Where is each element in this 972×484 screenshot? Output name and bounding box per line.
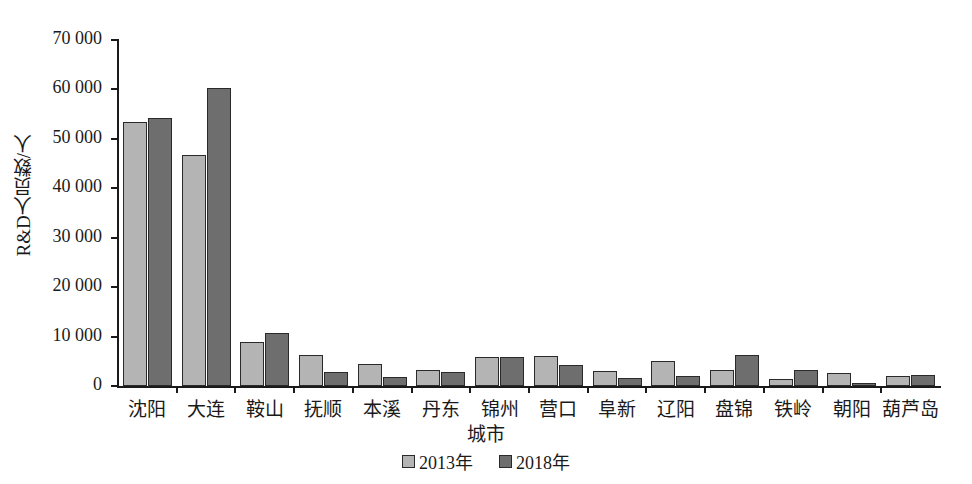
x-axis-category-label: 大连 [177, 398, 236, 422]
bar-2018 [676, 376, 700, 386]
x-axis-category-label: 朝阳 [823, 398, 882, 422]
x-axis-tick [587, 386, 589, 393]
y-axis-tick-label: 10 000 [53, 325, 103, 345]
legend-label-2013: 2013年 [419, 448, 473, 474]
y-axis-tick: 60 000 [111, 88, 118, 90]
bar-group [299, 40, 348, 386]
bar-group [182, 40, 231, 386]
bar-group [710, 40, 759, 386]
x-axis-category-label: 丹东 [412, 398, 471, 422]
chart-legend: 2013年 2018年 [0, 448, 972, 474]
legend-swatch-2018 [499, 455, 512, 468]
y-axis-tick-label: 30 000 [53, 226, 103, 246]
bar-2018 [794, 370, 818, 386]
bar-group [651, 40, 700, 386]
y-axis-title-text: R&D人员数/人 [10, 134, 37, 256]
y-axis-tick: 40 000 [111, 187, 118, 189]
bar-2013 [593, 371, 617, 386]
bar-group [886, 40, 935, 386]
bar-group [593, 40, 642, 386]
bar-2013 [769, 379, 793, 386]
x-axis-category-label: 阜新 [588, 398, 647, 422]
x-axis-tick [528, 386, 530, 393]
bar-2013 [299, 355, 323, 386]
x-axis-category-label: 葫芦岛 [881, 398, 940, 422]
x-axis-tick [176, 386, 178, 393]
y-axis-tick: 50 000 [111, 138, 118, 140]
plot-area: 010 00020 00030 00040 00050 00060 00070 … [118, 40, 940, 386]
x-axis-category-label: 铁岭 [764, 398, 823, 422]
x-axis-category-label: 鞍山 [235, 398, 294, 422]
x-axis-category-label: 沈阳 [118, 398, 177, 422]
bar-group [416, 40, 465, 386]
bar-2018 [911, 375, 935, 386]
bar-2013 [534, 356, 558, 386]
bar-2018 [148, 118, 172, 386]
legend-swatch-2013 [402, 455, 415, 468]
bar-2018 [735, 355, 759, 386]
y-axis-tick-label: 20 000 [53, 275, 103, 295]
bar-group [475, 40, 524, 386]
bar-2018 [559, 365, 583, 386]
x-axis-tick [293, 386, 295, 393]
bar-group [827, 40, 876, 386]
bar-2013 [827, 373, 851, 386]
x-axis-tick [234, 386, 236, 393]
bar-2018 [500, 357, 524, 386]
bar-group [358, 40, 407, 386]
x-axis-tick [880, 386, 882, 393]
bar-2013 [651, 361, 675, 386]
y-axis-tick: 30 000 [111, 237, 118, 239]
bar-group [123, 40, 172, 386]
bar-2013 [416, 370, 440, 386]
y-axis-title: R&D人员数/人 [6, 0, 40, 390]
y-axis-tick: 70 000 [111, 39, 118, 41]
y-axis-tick: 10 000 [111, 336, 118, 338]
bar-2013 [240, 342, 264, 386]
bar-2013 [358, 364, 382, 386]
legend-item-2018: 2018年 [499, 448, 570, 474]
bar-2018 [852, 383, 876, 386]
y-axis-tick: 20 000 [111, 286, 118, 288]
bar-2018 [265, 333, 289, 386]
bar-2018 [441, 372, 465, 386]
x-axis-tick [411, 386, 413, 393]
x-axis-tick [469, 386, 471, 393]
x-axis-category-label: 抚顺 [294, 398, 353, 422]
bar-2018 [618, 378, 642, 386]
bar-group [769, 40, 818, 386]
x-axis-tick [822, 386, 824, 393]
legend-item-2013: 2013年 [402, 448, 473, 474]
bar-2013 [475, 357, 499, 386]
x-axis-category-label: 本溪 [353, 398, 412, 422]
bar-2013 [710, 370, 734, 386]
x-axis-tick [352, 386, 354, 393]
y-axis-tick-label: 60 000 [53, 77, 103, 97]
bar-2018 [383, 377, 407, 386]
legend-label-2018: 2018年 [516, 448, 570, 474]
x-axis-tick [645, 386, 647, 393]
x-axis-tick [704, 386, 706, 393]
y-axis-tick-label: 0 [93, 374, 102, 394]
x-axis-category-label: 盘锦 [705, 398, 764, 422]
bar-2013 [886, 376, 910, 386]
x-axis-category-label: 辽阳 [646, 398, 705, 422]
bar-2018 [324, 372, 348, 386]
y-axis-tick: 0 [111, 385, 118, 387]
y-axis-tick-label: 40 000 [53, 176, 103, 196]
x-axis-title: 城市 [0, 424, 972, 446]
bar-group [240, 40, 289, 386]
bar-chart-figure: R&D人员数/人 010 00020 00030 00040 00050 000… [0, 0, 972, 484]
bar-2018 [207, 88, 231, 386]
x-axis-tick [763, 386, 765, 393]
y-axis-tick-label: 70 000 [53, 28, 103, 48]
x-axis-category-label: 营口 [529, 398, 588, 422]
x-axis-category-label: 锦州 [470, 398, 529, 422]
bar-2013 [123, 122, 147, 386]
y-axis-tick-label: 50 000 [53, 127, 103, 147]
bar-2013 [182, 155, 206, 386]
bar-group [534, 40, 583, 386]
